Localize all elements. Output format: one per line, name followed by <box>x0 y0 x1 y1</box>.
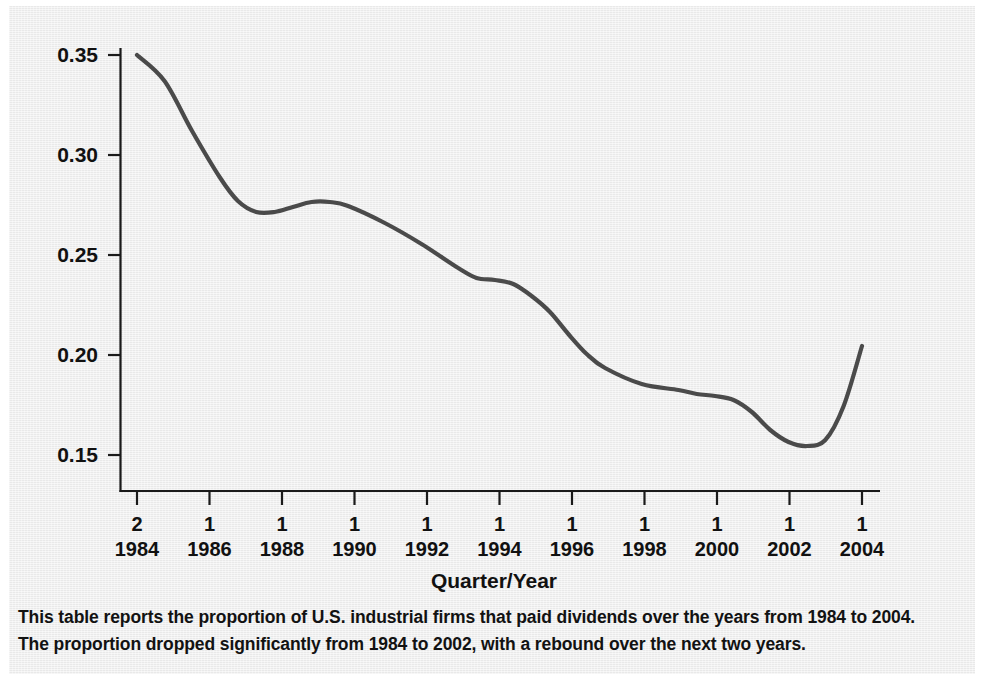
x-axis-year-label: 1992 <box>405 538 450 560</box>
x-axis-title: Quarter/Year <box>431 569 557 592</box>
y-axis-ticks: 0.350.300.250.200.15 <box>57 43 121 466</box>
line-chart-svg: 0.350.300.250.200.15 2198411986119881199… <box>0 0 983 682</box>
x-axis-quarter-label: 1 <box>276 513 287 535</box>
figure-container: 0.350.300.250.200.15 2198411986119881199… <box>0 0 983 682</box>
y-axis-tick-label: 0.35 <box>57 43 98 66</box>
x-axis-quarter-label: 1 <box>349 513 360 535</box>
x-axis-year-label: 1998 <box>622 538 667 560</box>
y-axis-tick-label: 0.30 <box>57 143 98 166</box>
x-axis-year-label: 1988 <box>260 538 305 560</box>
x-axis-year-label: 1994 <box>477 538 522 560</box>
x-axis-quarter-label: 1 <box>784 513 795 535</box>
caption-line-2: The proportion dropped significantly fro… <box>18 631 968 658</box>
x-axis-quarter-label: 1 <box>711 513 722 535</box>
x-axis-quarter-label: 1 <box>856 513 867 535</box>
x-axis-year-label: 1986 <box>187 538 232 560</box>
x-axis-quarter-label: 1 <box>204 513 215 535</box>
caption-line-1: This table reports the proportion of U.S… <box>18 604 968 631</box>
x-axis-quarter-label: 2 <box>131 513 142 535</box>
x-axis-quarter-label: 1 <box>566 513 577 535</box>
chart-plot-area: 0.350.300.250.200.15 2198411986119881199… <box>0 0 983 682</box>
y-axis-tick-label: 0.25 <box>57 243 98 266</box>
x-axis-year-label: 2004 <box>840 538 885 560</box>
y-axis-tick-label: 0.20 <box>57 343 98 366</box>
figure-caption: This table reports the proportion of U.S… <box>18 604 968 657</box>
x-axis-year-label: 1996 <box>550 538 595 560</box>
y-axis-tick-label: 0.15 <box>57 443 98 466</box>
x-axis-year-label: 2002 <box>767 538 812 560</box>
x-axis-year-label: 2000 <box>695 538 740 560</box>
x-axis-ticks: 2198411986119881199011992119941199611998… <box>115 490 885 560</box>
x-axis-quarter-label: 1 <box>421 513 432 535</box>
x-axis-year-label: 1990 <box>332 538 377 560</box>
x-axis-year-label: 1984 <box>115 538 160 560</box>
x-axis-quarter-label: 1 <box>639 513 650 535</box>
x-axis-quarter-label: 1 <box>494 513 505 535</box>
data-series-line <box>137 55 862 446</box>
